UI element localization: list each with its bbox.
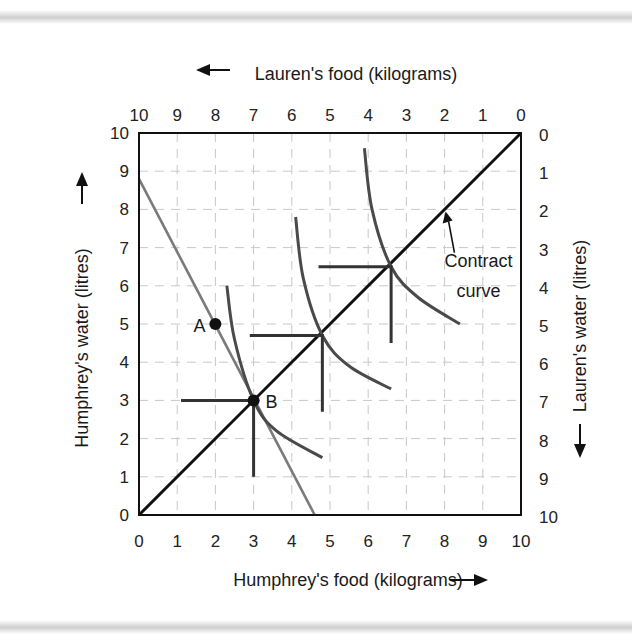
left-tick-label: 10 [110,124,129,143]
y-axis-label-lauren-water: Lauren's water (litres) [570,240,590,413]
top-tick-label: 8 [211,106,220,125]
top-tick-label: 4 [363,106,372,125]
bottom-tick-label: 9 [478,532,487,551]
arrow-up-head-icon [76,172,88,186]
budget-line [139,179,315,515]
point-a-marker [209,318,221,330]
right-tick-label: 8 [539,432,548,451]
left-tick-label: 5 [120,315,129,334]
x-axis-label-lauren-food: Lauren's food (kilograms) [255,64,458,84]
bottom-tick-label: 10 [512,532,531,551]
point-b-marker [248,394,260,406]
right-tick-label: 3 [539,241,548,260]
right-tick-label: 5 [539,317,548,336]
right-tick-label: 0 [539,126,548,145]
arrow-left-head-icon [196,64,210,76]
right-tick-label: 4 [539,279,548,298]
bottom-tick-label: 8 [440,532,449,551]
left-tick-label: 8 [120,200,129,219]
top-tick-label: 2 [440,106,449,125]
top-tick-label: 5 [325,106,334,125]
point-a-label: A [193,316,205,336]
top-tick-label: 1 [478,106,487,125]
top-tick-label: 10 [130,106,149,125]
contract-curve-annotation-line1: Contract [444,251,512,271]
point-b-label: B [266,392,278,412]
top-tick-label: 6 [287,106,296,125]
bottom-tick-label: 0 [134,532,143,551]
edgeworth-box-chart: 0123456789101098765432100123456789100123… [0,0,632,640]
x-axis-label-humphrey-food: Humphrey's food (kilograms) [233,570,463,590]
left-tick-label: 6 [120,277,129,296]
arrow-down-head-icon [574,444,586,458]
top-tick-label: 7 [249,106,258,125]
bottom-tick-label: 7 [402,532,411,551]
lauren-indifference-curve-3 [319,267,392,343]
right-tick-label: 2 [539,202,548,221]
right-tick-label: 6 [539,355,548,374]
top-tick-label: 3 [402,106,411,125]
right-tick-label: 1 [539,164,548,183]
bottom-tick-label: 6 [363,532,372,551]
bottom-tick-label: 4 [287,532,296,551]
bottom-tick-label: 1 [172,532,181,551]
y-axis-label-humphrey-water: Humphrey's water (litres) [72,248,92,447]
right-tick-label: 9 [539,470,548,489]
left-tick-label: 7 [120,239,129,258]
left-tick-label: 2 [120,430,129,449]
right-tick-label: 10 [539,508,558,527]
left-tick-label: 0 [120,506,129,525]
point-markers: ABContractcurve [193,211,512,412]
bottom-tick-label: 2 [211,532,220,551]
contract-curve-annotation-line2: curve [456,281,500,301]
bottom-tick-label: 3 [249,532,258,551]
arrow-right-head-icon [474,574,488,586]
top-tick-label: 0 [516,106,525,125]
humphrey-indifference-curve-2 [296,217,392,389]
left-tick-label: 9 [120,162,129,181]
left-tick-label: 3 [120,391,129,410]
bottom-tick-label: 5 [325,532,334,551]
left-tick-label: 4 [120,353,129,372]
right-tick-label: 7 [539,393,548,412]
top-tick-label: 9 [172,106,181,125]
humphrey-indifference-curve-3 [364,148,460,324]
left-tick-label: 1 [120,468,129,487]
